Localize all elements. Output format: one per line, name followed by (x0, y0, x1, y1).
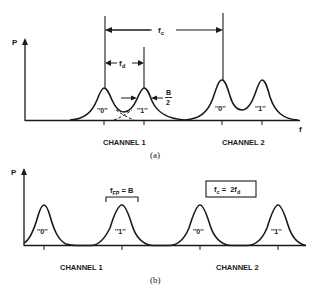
y-axis-arrow-icon (22, 38, 28, 45)
x-axis-label: f (299, 125, 302, 134)
peak-label-ch1-0: ''0'' (97, 107, 108, 114)
svg-text:fc = 2fd: fc = 2fd (214, 185, 240, 195)
peak-label-b-1: ''0'' (37, 228, 48, 235)
spectrum-b (24, 205, 306, 246)
panel-b: P fFP = B fc = 2fd ''0'' ''1'' ''0'' ''1… (11, 168, 306, 285)
fp-bandwidth-bracket: fFP = B (106, 186, 138, 202)
channel2-label: CHANNEL 2 (222, 138, 265, 147)
fc-equals-2fd-box: fc = 2fd (206, 181, 256, 197)
bandwidth-half-label: B 2 (165, 89, 172, 106)
channel2-label-b: CHANNEL 2 (216, 263, 259, 272)
peak-label-b-2: ''1'' (115, 228, 126, 235)
peak-label-ch2-0: ''0'' (215, 105, 226, 112)
svg-text:B: B (166, 89, 171, 96)
y-axis-label: P (12, 38, 18, 47)
peak-label-ch2-1: ''1'' (255, 105, 266, 112)
channel1-label: CHANNEL 1 (103, 138, 146, 147)
svg-text:2: 2 (166, 99, 170, 106)
svg-text:fFP = B: fFP = B (110, 186, 134, 196)
caption-b: (b) (150, 275, 161, 285)
channel1-label-b: CHANNEL 1 (60, 263, 103, 272)
peak-label-b-3: ''0'' (193, 228, 204, 235)
panel-a: P f fc fd B (12, 13, 302, 160)
y-axis-b-arrow-icon (21, 168, 27, 175)
channel2-spectrum (185, 80, 298, 120)
peak-label-b-4: ''1'' (271, 228, 282, 235)
caption-a: (a) (150, 150, 160, 160)
y-axis-label-b: P (11, 168, 17, 177)
fc-dimension-label: fc (158, 26, 165, 36)
peak-label-ch1-1: ''1'' (137, 107, 148, 114)
fsk-channel-diagram: P f fc fd B (0, 0, 321, 294)
fd-dimension-label: fd (119, 59, 126, 69)
